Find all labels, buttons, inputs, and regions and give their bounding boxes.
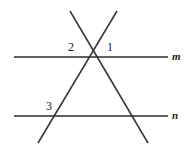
line-n-label: n <box>172 110 178 121</box>
figure-canvas <box>0 0 192 150</box>
transversal-a <box>70 11 148 143</box>
angle-label-1: 1 <box>107 41 113 53</box>
geometry-figure: m n 2 1 3 <box>0 0 192 150</box>
angle-label-2: 2 <box>68 41 74 53</box>
line-m-label: m <box>172 51 181 62</box>
angle-label-3: 3 <box>46 100 52 112</box>
transversal-b <box>38 11 117 143</box>
